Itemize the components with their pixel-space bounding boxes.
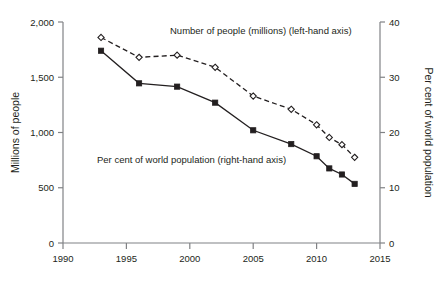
series-label-per-cent: Per cent of world population (right-hand… bbox=[97, 154, 286, 165]
y-tick-label-1500: 1,500 bbox=[30, 72, 54, 83]
data-point bbox=[352, 181, 357, 186]
data-point bbox=[288, 106, 294, 112]
line-chart: 0 500 1,000 1,500 2,000 Millions of peop… bbox=[0, 0, 440, 281]
y2-axis-title: Per cent of world population bbox=[423, 67, 435, 197]
x-tick-label-1990: 1990 bbox=[52, 253, 73, 264]
axis-right-ticks bbox=[380, 22, 385, 243]
chart-container: 0 500 1,000 1,500 2,000 Millions of peop… bbox=[0, 0, 440, 281]
axis-left: 0 500 1,000 1,500 2,000 Millions of peop… bbox=[9, 17, 63, 249]
data-point bbox=[175, 84, 180, 89]
data-point bbox=[174, 52, 180, 58]
axis-bottom-ticks bbox=[63, 243, 380, 249]
data-point bbox=[213, 100, 218, 105]
y2-tick-label-30: 30 bbox=[389, 72, 400, 83]
y-tick-label-0: 0 bbox=[49, 238, 54, 249]
y2-tick-label-40: 40 bbox=[389, 17, 400, 28]
data-point bbox=[98, 48, 103, 53]
series-label-number-of-people: Number of people (millions) (left-hand a… bbox=[170, 25, 352, 36]
y2-tick-label-10: 10 bbox=[389, 182, 400, 193]
series-number-of-people bbox=[98, 48, 357, 186]
axis-right-tick-labels: 0 10 20 30 40 bbox=[389, 17, 400, 249]
data-point bbox=[98, 34, 104, 40]
x-tick-label-2000: 2000 bbox=[179, 253, 200, 264]
data-point bbox=[136, 54, 142, 60]
data-point bbox=[136, 81, 141, 86]
axis-bottom: 1990 1995 2000 2005 2010 2015 bbox=[52, 243, 390, 264]
data-point bbox=[289, 142, 294, 147]
y-tick-label-1000: 1,000 bbox=[30, 127, 54, 138]
y-axis-title: Millions of people bbox=[9, 92, 21, 173]
y2-tick-label-0: 0 bbox=[389, 238, 394, 249]
data-point bbox=[326, 134, 332, 140]
x-tick-label-2015: 2015 bbox=[369, 253, 390, 264]
y-tick-label-500: 500 bbox=[38, 182, 54, 193]
x-tick-label-2005: 2005 bbox=[243, 253, 264, 264]
y2-tick-label-20: 20 bbox=[389, 127, 400, 138]
data-point bbox=[352, 154, 358, 160]
data-point bbox=[314, 154, 319, 159]
data-point bbox=[251, 128, 256, 133]
axis-bottom-tick-labels: 1990 1995 2000 2005 2010 2015 bbox=[52, 253, 390, 264]
axis-right: 0 10 20 30 40 Per cent of world populati… bbox=[380, 17, 435, 249]
data-point bbox=[327, 166, 332, 171]
axis-left-tick-labels: 0 500 1,000 1,500 2,000 bbox=[30, 17, 54, 249]
y-tick-label-2000: 2,000 bbox=[30, 17, 54, 28]
x-tick-label-2010: 2010 bbox=[306, 253, 327, 264]
axis-left-ticks bbox=[58, 22, 63, 243]
series-per-cent bbox=[98, 34, 358, 160]
x-tick-label-1995: 1995 bbox=[116, 253, 137, 264]
data-point bbox=[339, 172, 344, 177]
